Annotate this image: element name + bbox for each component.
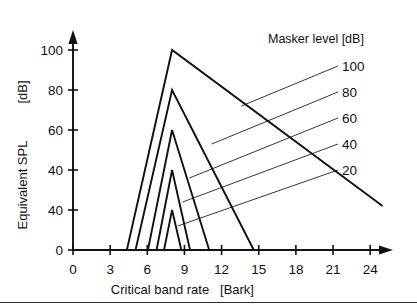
y-axis-tick-label: 40	[48, 163, 63, 178]
y-axis: 040406080100	[40, 30, 78, 258]
y-axis-tick-label: 60	[48, 123, 63, 138]
legend-label-20: 20	[342, 163, 357, 178]
x-axis-tick-label: 6	[144, 262, 152, 277]
legend-label-100: 100	[342, 59, 365, 74]
y-axis-unit: [dB]	[15, 80, 30, 103]
legend-label-40: 40	[342, 137, 357, 152]
x-axis-tick-label: 18	[288, 262, 303, 277]
y-axis-arrowhead	[68, 30, 77, 44]
legend-labels: 10080604020	[342, 59, 365, 178]
leader-line-60	[189, 118, 338, 178]
leader-line-20	[178, 170, 338, 226]
x-axis-unit: [Bark]	[220, 282, 254, 297]
y-axis-tick-label: 80	[48, 83, 63, 98]
x-axis-tick-label: 21	[326, 262, 341, 277]
y-axis-tick-label: 100	[40, 43, 63, 58]
legend-label-80: 80	[342, 85, 357, 100]
x-axis-tick-label: 3	[106, 262, 114, 277]
x-axis-tick-label: 9	[181, 262, 189, 277]
leader-line-100	[241, 66, 338, 106]
x-axis-tick-label: 12	[214, 262, 229, 277]
y-axis-tick-label: 40	[48, 203, 63, 218]
x-axis-tick-label: 0	[69, 262, 77, 277]
x-axis-tick-label: 15	[251, 262, 266, 277]
x-axis-tick-label: 24	[363, 262, 379, 277]
legend-label-60: 60	[342, 111, 357, 126]
plot-area: 040406080100 03691215182124 10080604020	[40, 30, 393, 277]
masking-curve-20	[164, 210, 181, 250]
leader-line-80	[212, 92, 338, 144]
y-axis-title: Equivalent SPL	[15, 141, 30, 230]
x-axis-arrowhead	[379, 245, 393, 254]
masking-pattern-figure: 040406080100 03691215182124 10080604020 …	[0, 0, 417, 308]
leader-line-40	[183, 144, 338, 202]
y-axis-tick-label: 0	[55, 243, 63, 258]
x-axis-title: Critical band rate	[111, 282, 209, 297]
chart-canvas: 040406080100 03691215182124 10080604020 …	[0, 0, 417, 308]
masking-curve-60	[148, 130, 209, 250]
legend-title: Masker level [dB]	[268, 32, 364, 46]
x-axis: 03691215182124	[69, 245, 393, 277]
